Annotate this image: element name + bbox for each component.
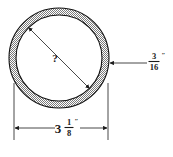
outer-diameter-numerator: 1 <box>67 117 71 127</box>
outer-diameter-inch-mark: ″ <box>75 117 79 125</box>
technical-drawing-figure: ? 3 16 ″ 3 1 8 ″ <box>0 0 173 157</box>
outer-diameter-whole-number: 3 <box>55 121 62 136</box>
outer-diameter-denominator: 8 <box>67 128 71 138</box>
wall-thickness-denominator: 16 <box>150 62 159 72</box>
unknown-diameter-label: ? <box>52 52 58 64</box>
wall-thickness-inch-mark: ″ <box>162 51 166 59</box>
wall-thickness-dimension: 3 16 ″ <box>110 51 166 72</box>
pipe-cross-section-drawing: ? 3 16 ″ 3 1 8 ″ <box>0 0 173 157</box>
wall-thickness-numerator: 3 <box>152 51 156 61</box>
